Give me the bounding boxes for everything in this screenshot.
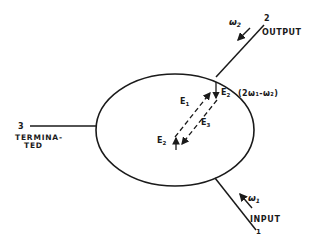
port-2-label: OUTPUT	[262, 28, 302, 37]
e1-label: E1	[180, 97, 189, 107]
port-2-number: 2	[264, 14, 270, 23]
port-2-line	[216, 25, 264, 77]
mixing-expression: (2ω₁-ω₂)	[238, 89, 278, 98]
port-3-number: 3	[18, 122, 24, 131]
port-1-number: 1	[256, 228, 261, 236]
port-1-label: INPUT	[250, 215, 281, 224]
omega2-arrow	[238, 28, 250, 40]
e3-label: E3	[201, 118, 210, 128]
e2-bottom-label: E2	[157, 136, 166, 146]
circulator-diagram: ω2 2 OUTPUT 3 TERMINA- TED ω1 INPUT 1 E1…	[0, 0, 319, 243]
omega1-label: ω1	[248, 193, 260, 204]
port-3-label-line2: TED	[24, 141, 43, 150]
omega2-label: ω2	[229, 17, 241, 28]
junction-circle	[96, 74, 254, 186]
